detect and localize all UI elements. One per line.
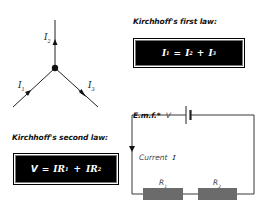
first-law-equation-box: I1 = I2 + I3 [135, 40, 243, 66]
label-i2: I2 [44, 32, 51, 44]
label-i1: I1 [18, 80, 25, 92]
junction-diagram [13, 20, 98, 107]
second-law-equation-box: V = IR1 + IR2 [15, 155, 117, 183]
current-label: Current I [139, 145, 176, 164]
current-arrow-icon [129, 146, 135, 152]
label-r1: R1 [159, 178, 167, 189]
label-r2: R2 [213, 178, 221, 189]
resistor-r2 [198, 188, 237, 200]
junction-node [52, 65, 58, 71]
label-i3: I3 [88, 80, 95, 92]
resistor-r1 [143, 188, 183, 200]
arrow-up-icon [53, 39, 58, 45]
emf-label: E.m.f.* V [133, 103, 171, 122]
second-law-heading: Kirchhoff's second law: [12, 133, 108, 142]
first-law-heading: Kirchhoff's first law: [133, 17, 217, 26]
